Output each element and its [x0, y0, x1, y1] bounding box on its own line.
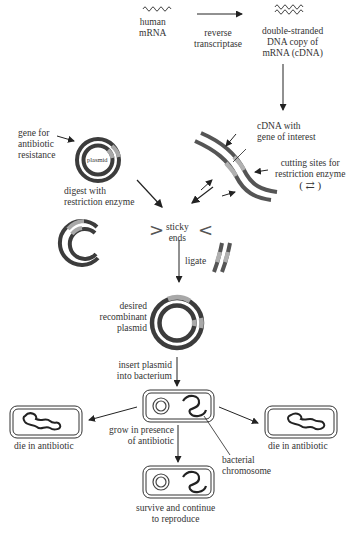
die-left-arrow — [89, 407, 137, 420]
survivor-bacterium-icon — [143, 466, 214, 498]
grow-antibiotic-label: grow in presenceof antibiotic — [108, 425, 174, 447]
cdna-to-sticky-arrow — [192, 187, 213, 203]
sticky-end-left-bracket-icon: > — [149, 219, 164, 240]
digest-arrow — [137, 180, 162, 207]
mrna-label: humanmRNA — [139, 17, 166, 39]
die-right-label: die in antibiotic — [268, 441, 328, 452]
sticky-end-right-bracket-icon: < — [198, 219, 213, 240]
gene-pointer-arrow — [57, 136, 74, 141]
gene-resistance-label: gene forantibioticresistance — [18, 128, 55, 161]
cut-arrow-2 — [255, 170, 268, 172]
diagram-artwork — [0, 0, 357, 540]
cut-arrow-1 — [226, 134, 236, 146]
digest-label: digest withrestriction enzyme — [64, 186, 134, 208]
dead-bacterium-right-icon — [265, 406, 337, 438]
cdna-copy-label: double-strandedDNA copy ofmRNA (cDNA) — [262, 26, 323, 59]
mrna-wave-icon — [143, 7, 171, 11]
ligate-label: ligate — [185, 256, 206, 267]
bacterium-with-plasmid-icon — [143, 390, 214, 422]
sticky-ends-label: stickyends — [166, 222, 189, 244]
cdna-strands-icon — [195, 133, 277, 200]
recombinant-plasmid-icon — [152, 297, 202, 348]
reverse-transcriptase-label: reversetranscriptase — [194, 28, 242, 50]
cutting-sites-label: cutting sites forrestriction enzyme( ⇄ ) — [275, 158, 345, 191]
plasmid-inner-label: plasmid — [87, 154, 108, 165]
recombinant-plasmid-label: desiredrecombinantplasmid — [96, 301, 147, 334]
dna-fragment-icon — [214, 243, 230, 272]
survive-label: survive and continueto reproduce — [136, 503, 215, 525]
insert-plasmid-label: insert plasmidinto bacterium — [110, 360, 172, 382]
die-left-label: die in antibiotic — [14, 441, 74, 452]
dead-bacterium-left-icon — [10, 406, 82, 438]
cdna-wave-icon — [275, 5, 303, 9]
bacterial-chromosome-label: bacterialchromosome — [222, 455, 271, 477]
cdna-gene-label: cDNA withgene of interest — [257, 121, 316, 143]
open-plasmid-icon — [60, 221, 98, 265]
die-right-arrow — [219, 407, 258, 423]
cut-arrow-4 — [222, 192, 235, 196]
